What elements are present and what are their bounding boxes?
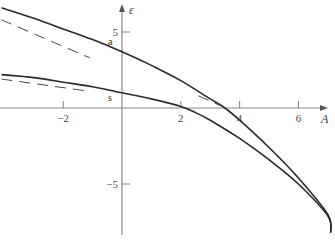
x-tick-label: 2 (178, 112, 184, 124)
x-tick-label: −2 (57, 112, 69, 124)
series-a-asymptote (2, 20, 90, 58)
y-axis-arrow-icon (119, 4, 125, 12)
x-tick-label: 6 (296, 112, 302, 124)
series-s-asymptote (2, 79, 90, 91)
series-s (2, 75, 332, 233)
x-axis-label: A (320, 112, 329, 126)
y-tick-label: 5 (113, 26, 119, 38)
x-axis-arrow-icon (320, 105, 328, 111)
series-a (2, 8, 332, 233)
curve-label-s: s (108, 91, 112, 103)
chart: −22465−5 as A ε (0, 0, 335, 242)
annotations: as (108, 35, 113, 103)
curve-label-a: a (108, 35, 113, 47)
series (2, 8, 332, 233)
y-tick-label: −5 (106, 178, 118, 190)
y-axis-label: ε (129, 3, 134, 17)
axes (0, 4, 328, 235)
